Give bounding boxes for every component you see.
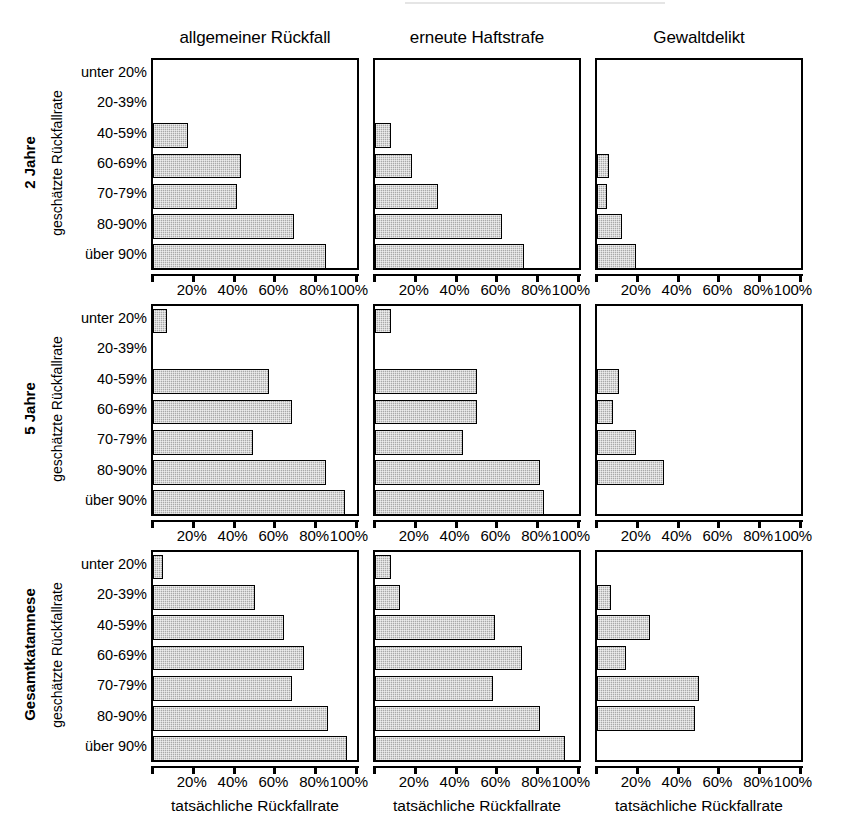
bar-6069-r2-c1 (153, 400, 292, 425)
ycat-label-r3-2: 20-39% (29, 586, 147, 602)
x-tick-label: 100% (330, 281, 368, 298)
x-tick-label: 40% (662, 527, 692, 544)
ycat-label-r2-2: 20-39% (29, 340, 147, 356)
bar-7079-r1-c2 (375, 184, 438, 209)
x-axis-r3-c1 (151, 766, 359, 768)
x-tick-label: 100% (774, 773, 812, 790)
x-axis-title-c1: tatsächliche Rückfallrate (133, 797, 377, 815)
bar-2039-r3-c1 (153, 585, 255, 610)
x-tick-label: 20% (177, 773, 207, 790)
panel-r1-c3 (595, 58, 803, 270)
x-tick-label: 80% (743, 773, 773, 790)
ycat-label-r2-1: unter 20% (29, 310, 147, 326)
bar-2039-r3-c3 (597, 585, 611, 610)
ycat-label-r3-6: 80-90% (29, 708, 147, 724)
x-tick-labels-r1-c2: 20%40%60%80%100% (373, 281, 581, 299)
x-tick-label: 60% (702, 281, 732, 298)
bar-unter20-r3-c2 (375, 555, 391, 580)
panel-r2-c1 (151, 304, 359, 516)
x-tick-label: 60% (258, 281, 288, 298)
x-tick-label: 40% (218, 281, 248, 298)
bar-6069-r2-c3 (597, 400, 613, 425)
ycat-label-r2-4: 60-69% (29, 401, 147, 417)
x-tick-label: 100% (774, 527, 812, 544)
bar-8090-r1-c2 (375, 214, 502, 239)
bar-6069-r2-c2 (375, 400, 477, 425)
bar-4059-r3-c2 (375, 615, 495, 640)
x-tick-label: 80% (743, 281, 773, 298)
panel-r1-c1 (151, 58, 359, 270)
x-tick-label: 100% (774, 281, 812, 298)
x-tick-labels-r2-c1: 20%40%60%80%100% (151, 527, 359, 545)
ycat-label-r3-1: unter 20% (29, 556, 147, 572)
bar-4059-r2-c2 (375, 369, 477, 394)
x-axis-title-c3: tatsächliche Rückfallrate (577, 797, 821, 815)
x-tick-label: 60% (480, 773, 510, 790)
bar-unter20-r3-c1 (153, 555, 163, 580)
ycat-label-r2-3: 40-59% (29, 371, 147, 387)
plot-area (597, 552, 801, 760)
panel-r3-c2 (373, 550, 581, 762)
x-tick-label: 100% (330, 773, 368, 790)
x-tick-label: 60% (702, 773, 732, 790)
bar-unter20-r2-c1 (153, 309, 167, 334)
x-axis-r1-c2 (373, 274, 581, 276)
bar-7079-r3-c1 (153, 676, 292, 701)
x-axis-r1-c3 (595, 274, 803, 276)
x-tick-label: 20% (177, 281, 207, 298)
column-title-2: erneute Haftstrafe (373, 28, 581, 48)
bar-7079-r3-c2 (375, 676, 493, 701)
x-tick-labels-r3-c1: 20%40%60%80%100% (151, 773, 359, 791)
bar-ber90-r2-c2 (375, 490, 544, 515)
x-tick-label: 20% (621, 773, 651, 790)
bar-6069-r1-c1 (153, 154, 241, 179)
x-tick-label: 100% (552, 281, 590, 298)
panel-r3-c1 (151, 550, 359, 762)
ycat-label-r3-3: 40-59% (29, 617, 147, 633)
x-axis-title-c2: tatsächliche Rückfallrate (355, 797, 599, 815)
x-tick-label: 20% (399, 527, 429, 544)
bar-8090-r1-c1 (153, 214, 294, 239)
x-tick-labels-r1-c1: 20%40%60%80%100% (151, 281, 359, 299)
x-axis-r3-c3 (595, 766, 803, 768)
x-tick-label: 20% (621, 527, 651, 544)
ycat-label-r3-5: 70-79% (29, 677, 147, 693)
bar-8090-r3-c3 (597, 706, 695, 731)
bar-7079-r2-c1 (153, 430, 253, 455)
plot-area (597, 306, 801, 514)
bar-7079-r1-c1 (153, 184, 237, 209)
bar-ber90-r3-c1 (153, 736, 347, 761)
panel-r1-c2 (373, 58, 581, 270)
x-tick-label: 20% (399, 281, 429, 298)
bar-8090-r2-c1 (153, 460, 326, 485)
x-tick-label: 80% (743, 527, 773, 544)
x-axis-r1-c1 (151, 274, 359, 276)
x-tick-label: 100% (552, 527, 590, 544)
ycat-label-r3-4: 60-69% (29, 647, 147, 663)
x-tick-label: 100% (330, 527, 368, 544)
bar-unter20-r2-c2 (375, 309, 391, 334)
x-tick-label: 80% (299, 773, 329, 790)
bar-ber90-r2-c1 (153, 490, 345, 515)
column-title-3: Gewaltdelikt (595, 28, 803, 48)
x-axis-r2-c1 (151, 520, 359, 522)
panel-r2-c3 (595, 304, 803, 516)
bar-6069-r3-c2 (375, 646, 522, 671)
x-tick-label: 40% (662, 773, 692, 790)
x-tick-label: 40% (440, 773, 470, 790)
bar-8090-r3-c1 (153, 706, 328, 731)
scan-artifact (405, 2, 665, 4)
ycat-label-r1-3: 40-59% (29, 125, 147, 141)
x-tick-labels-r2-c2: 20%40%60%80%100% (373, 527, 581, 545)
ycat-label-r2-7: über 90% (29, 492, 147, 508)
ycat-label-r1-4: 60-69% (29, 155, 147, 171)
x-tick-label: 40% (440, 527, 470, 544)
row-title-3: Gesamtkatamnese (21, 529, 38, 781)
bar-4059-r1-c1 (153, 123, 188, 148)
panel-r3-c3 (595, 550, 803, 762)
bar-ber90-r1-c2 (375, 244, 524, 269)
x-tick-label: 80% (299, 281, 329, 298)
bar-8090-r2-c3 (597, 460, 664, 485)
bar-4059-r1-c2 (375, 123, 391, 148)
x-tick-label: 80% (521, 527, 551, 544)
